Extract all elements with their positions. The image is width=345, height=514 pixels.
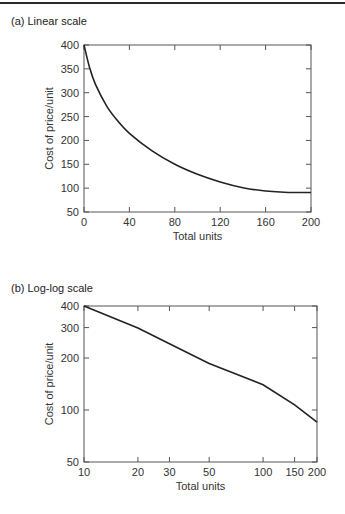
x-tick-label: 120 [211, 216, 229, 228]
y-tick-label: 400 [61, 39, 79, 51]
x-tick-label: 30 [163, 466, 175, 478]
x-tick-label: 200 [302, 216, 320, 228]
y-axis-label: Cost of price/unit [43, 87, 55, 170]
plot-frame-linear [84, 45, 311, 212]
y-tick-label: 200 [61, 134, 79, 146]
x-axis-label: Total units [176, 480, 226, 492]
y-tick-label: 50 [67, 456, 79, 468]
y-tick-label: 350 [61, 63, 79, 75]
x-tick-label: 150 [285, 466, 303, 478]
x-tick-label: 80 [169, 216, 181, 228]
y-tick-label: 200 [61, 352, 79, 364]
y-tick-label: 300 [61, 322, 79, 334]
y-tick-label: 50 [67, 206, 79, 218]
y-tick-label: 400 [61, 300, 79, 312]
x-tick-label: 50 [203, 466, 215, 478]
x-tick-label: 0 [81, 216, 87, 228]
x-tick-label: 160 [256, 216, 274, 228]
cost-curve-loglog [84, 306, 317, 422]
cost-curve-linear [84, 45, 311, 193]
x-tick-label: 200 [308, 466, 326, 478]
charts-canvas: 0408012016020050100150200250300350400Tot… [0, 0, 345, 514]
y-tick-label: 250 [61, 111, 79, 123]
y-tick-label: 150 [61, 158, 79, 170]
plot-frame-loglog [84, 306, 317, 462]
x-tick-label: 100 [254, 466, 272, 478]
x-tick-label: 10 [78, 466, 90, 478]
x-axis-label: Total units [173, 230, 223, 242]
x-tick-label: 40 [123, 216, 135, 228]
y-axis-label: Cost of price/unit [43, 343, 55, 426]
y-tick-label: 100 [61, 404, 79, 416]
y-tick-label: 100 [61, 182, 79, 194]
y-tick-label: 300 [61, 87, 79, 99]
x-tick-label: 20 [132, 466, 144, 478]
